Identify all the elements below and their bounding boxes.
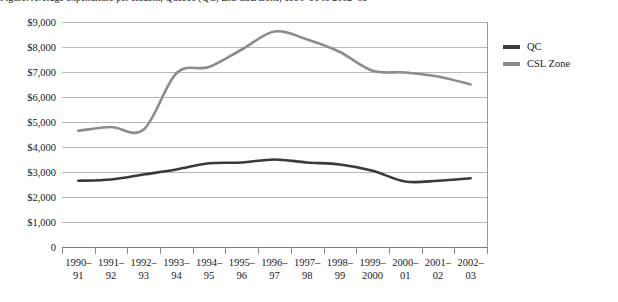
- y-axis-tick-label: $4,000: [27, 142, 56, 153]
- x-axis-label-line: 96: [225, 269, 258, 282]
- line-swatch-icon: [503, 62, 520, 66]
- x-axis-label-line: 1990–: [62, 256, 95, 269]
- x-axis-label-line: 91: [62, 269, 95, 282]
- x-axis-label-line: 93: [127, 269, 160, 282]
- line-swatch-icon: [503, 45, 520, 49]
- y-axis-tick-label: 0: [51, 242, 56, 253]
- x-axis-label-line: 02: [422, 269, 455, 282]
- x-axis-label-line: 2001–: [422, 256, 455, 269]
- legend-item[interactable]: QC: [503, 41, 570, 53]
- x-axis-tick: [454, 247, 455, 254]
- y-axis-tick-label: $8,000: [27, 42, 56, 53]
- chart-container: Figure: Average expenditure per student,…: [0, 0, 618, 302]
- y-axis-tick-label: $1,000: [27, 217, 56, 228]
- x-axis-label-line: 2002–: [454, 256, 487, 269]
- y-axis-tick-label: $6,000: [27, 92, 56, 103]
- plot-right-border: [487, 22, 488, 254]
- x-axis-tick: [356, 247, 357, 254]
- series-line-csl-zone: [78, 31, 470, 133]
- series-line-qc: [78, 160, 470, 183]
- y-axis-tick-label: $2,000: [27, 192, 56, 203]
- x-axis-tick: [324, 247, 325, 254]
- x-axis-tick: [95, 247, 96, 254]
- x-axis-label-line: 1996–: [258, 256, 291, 269]
- x-axis-label: 1995–96: [225, 256, 258, 282]
- x-axis-label-line: 2000: [356, 269, 389, 282]
- x-axis-label-line: 1998–: [324, 256, 357, 269]
- x-axis-label: 1991–92: [95, 256, 128, 282]
- x-axis-label: 1998–99: [324, 256, 357, 282]
- x-axis-tick: [389, 247, 390, 254]
- x-axis-label-line: 98: [291, 269, 324, 282]
- x-axis-label-line: 99: [324, 269, 357, 282]
- x-axis-tick: [291, 247, 292, 254]
- x-axis-label: 1993–94: [160, 256, 193, 282]
- x-axis-label-line: 95: [193, 269, 226, 282]
- x-axis-label: 2002–03: [454, 256, 487, 282]
- x-axis-tick: [258, 247, 259, 254]
- x-axis-tick: [127, 247, 128, 254]
- x-axis-label: 2001–02: [422, 256, 455, 282]
- legend-item[interactable]: CSL Zone: [503, 58, 570, 70]
- x-axis-labels: 1990–911991–921992–931993–941994–951995–…: [62, 256, 487, 296]
- legend-label: CSL Zone: [527, 58, 570, 70]
- x-axis-label-line: 92: [95, 269, 128, 282]
- series-lines: [62, 22, 487, 247]
- x-axis-label-line: 1991–: [95, 256, 128, 269]
- x-axis-label-line: 94: [160, 269, 193, 282]
- chart-legend: QCCSL Zone: [503, 41, 570, 75]
- x-axis-label-line: 01: [389, 269, 422, 282]
- x-axis-tick: [487, 247, 488, 254]
- x-axis-tick: [62, 247, 63, 254]
- x-axis-label-line: 97: [258, 269, 291, 282]
- x-axis-label: 1999–2000: [356, 256, 389, 282]
- x-axis-label: 1994–95: [193, 256, 226, 282]
- x-axis-label-line: 03: [454, 269, 487, 282]
- x-axis-label-line: 1994–: [193, 256, 226, 269]
- x-axis-label: 1992–93: [127, 256, 160, 282]
- x-axis-label-line: 1993–: [160, 256, 193, 269]
- x-axis-tick: [160, 247, 161, 254]
- y-axis-tick-label: $3,000: [27, 167, 56, 178]
- x-axis-tick: [422, 247, 423, 254]
- plot-area: [62, 22, 487, 247]
- x-axis-label: 1997–98: [291, 256, 324, 282]
- x-axis-label-line: 1992–: [127, 256, 160, 269]
- x-axis-ticks: [62, 247, 488, 254]
- x-axis-label: 1990–91: [62, 256, 95, 282]
- x-axis-label-line: 1995–: [225, 256, 258, 269]
- x-axis-label: 1996–97: [258, 256, 291, 282]
- x-axis-label-line: 1997–: [291, 256, 324, 269]
- x-axis-label-line: 1999–: [356, 256, 389, 269]
- y-axis-tick-label: $7,000: [27, 67, 56, 78]
- x-axis-tick: [225, 247, 226, 254]
- x-axis-label-line: 2000–: [389, 256, 422, 269]
- y-axis-tick-label: $9,000: [27, 17, 56, 28]
- legend-label: QC: [527, 41, 542, 53]
- x-axis-tick: [193, 247, 194, 254]
- x-axis-label: 2000–01: [389, 256, 422, 282]
- figure-caption: Figure: Average expenditure per student,…: [0, 0, 618, 5]
- y-axis-labels: $9,000$8,000$7,000$6,000$5,000$4,000$3,0…: [0, 22, 56, 247]
- y-axis-tick-label: $5,000: [27, 117, 56, 128]
